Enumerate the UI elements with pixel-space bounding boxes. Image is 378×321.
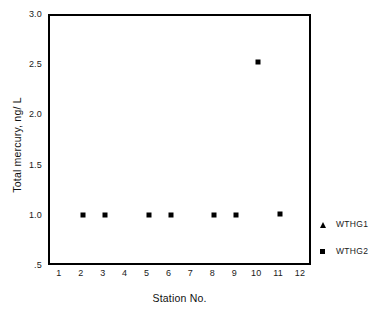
y-tick-label: .5 [34, 261, 42, 270]
chart-legend: WTHG1WTHG2 [318, 218, 378, 272]
x-tick-label: 3 [100, 268, 105, 278]
legend-label: WTHG2 [336, 246, 368, 256]
scatter-chart-figure: Total mercury, ng/ L 3.02.52.01.51.0.5 1… [0, 0, 378, 321]
x-axis-tick-labels: 123456789101112 [48, 268, 311, 282]
triangle-marker-icon [320, 222, 326, 228]
data-point-wthg2 [234, 212, 239, 217]
data-point-wthg2 [256, 60, 261, 65]
data-point-wthg2 [212, 212, 217, 217]
legend-label: WTHG1 [336, 219, 368, 229]
x-tick-label: 12 [295, 268, 305, 278]
data-point-wthg2 [102, 212, 107, 217]
x-tick-label: 2 [78, 268, 83, 278]
square-marker-icon [320, 249, 325, 254]
legend-item-wthg1[interactable]: WTHG1 [318, 218, 378, 245]
x-tick-label: 9 [232, 268, 237, 278]
plot-frame [48, 14, 311, 265]
data-point-wthg2 [80, 212, 85, 217]
y-tick-label: 3.0 [29, 10, 42, 19]
x-tick-label: 4 [122, 268, 127, 278]
data-point-wthg2 [278, 211, 283, 216]
x-tick-label: 6 [166, 268, 171, 278]
data-point-wthg2 [168, 212, 173, 217]
x-tick-label: 1 [56, 268, 61, 278]
x-tick-label: 10 [251, 268, 261, 278]
y-tick-label: 1.0 [29, 210, 42, 219]
y-tick-label: 2.0 [29, 110, 42, 119]
x-tick-label: 5 [144, 268, 149, 278]
legend-item-wthg2[interactable]: WTHG2 [318, 245, 378, 272]
y-axis-tick-labels: 3.02.52.01.51.0.5 [0, 14, 45, 265]
x-tick-label: 7 [188, 268, 193, 278]
x-axis-title: Station No. [48, 292, 311, 304]
x-tick-label: 11 [273, 268, 283, 278]
y-tick-label: 1.5 [29, 160, 42, 169]
plot-area [50, 16, 309, 263]
data-point-wthg2 [146, 212, 151, 217]
x-tick-label: 8 [210, 268, 215, 278]
y-tick-label: 2.5 [29, 60, 42, 69]
